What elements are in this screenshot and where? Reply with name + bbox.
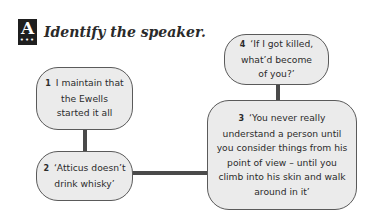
quote-text: I maintain that the Ewells started it al… bbox=[56, 77, 124, 118]
activity-title: Identify the speaker. bbox=[44, 24, 206, 40]
quote-number: 4 bbox=[240, 40, 246, 49]
connector-4-3 bbox=[276, 84, 280, 101]
quote-text: ‘You never really understand a person un… bbox=[217, 112, 348, 197]
section-a-badge: A ••• bbox=[18, 19, 37, 45]
quote-text: ‘Atticus doesn’t drink whisky’ bbox=[54, 162, 126, 189]
quote-number: 2 bbox=[43, 164, 49, 173]
quote-box-1: 1 I maintain that the Ewells started it … bbox=[36, 67, 133, 130]
quote-1: 1 I maintain that the Ewells started it … bbox=[45, 76, 125, 121]
connector-1-2 bbox=[83, 129, 87, 152]
quote-box-3: 3 ‘You never really understand a person … bbox=[207, 100, 357, 210]
connector-2-3 bbox=[131, 171, 208, 175]
quote-2: 2 ‘Atticus doesn’t drink whisky’ bbox=[43, 161, 126, 191]
quote-number: 1 bbox=[45, 79, 51, 88]
badge-dots-icon: ••• bbox=[18, 37, 37, 43]
quote-box-2: 2 ‘Atticus doesn’t drink whisky’ bbox=[36, 151, 133, 201]
quote-number: 3 bbox=[239, 114, 245, 123]
quote-box-4: 4 ‘If I got killed, what’d become of you… bbox=[224, 34, 329, 85]
badge-letter: A bbox=[18, 19, 37, 37]
quote-text: ‘If I got killed, what’d become of you?’ bbox=[241, 38, 313, 79]
quote-4: 4 ‘If I got killed, what’d become of you… bbox=[236, 37, 318, 82]
quote-3: 3 ‘You never really understand a person … bbox=[214, 111, 350, 199]
